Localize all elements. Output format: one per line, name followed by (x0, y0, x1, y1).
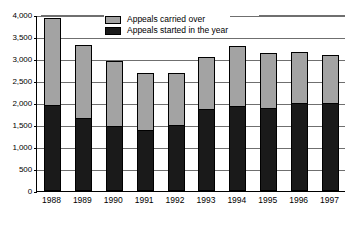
x-axis-tick-label: 1997 (314, 195, 345, 205)
bar-segment-started-in-year[interactable] (198, 109, 215, 191)
y-axis-tick-label: 3,500 (0, 34, 32, 42)
bar-group[interactable] (75, 15, 92, 191)
bar-group[interactable] (260, 15, 277, 191)
bar-segment-carried-over[interactable] (44, 18, 61, 106)
legend-label-carried-over: Appeals carried over (127, 15, 205, 24)
x-axis-tick-label: 1995 (252, 195, 283, 205)
bar-segment-carried-over[interactable] (260, 53, 277, 109)
x-axis-labels: 1988198919901991199219931994199519961997 (36, 195, 345, 209)
y-axis-tick (34, 192, 37, 193)
scan-artifact (0, 218, 350, 229)
bar-segment-carried-over[interactable] (137, 73, 154, 131)
bar-segment-started-in-year[interactable] (229, 106, 246, 191)
bar-group[interactable] (168, 15, 185, 191)
x-axis-tick-label: 1996 (283, 195, 314, 205)
legend-item-carried-over: Appeals carried over (105, 14, 228, 25)
bar-segment-started-in-year[interactable] (168, 125, 185, 191)
y-axis-tick-label: 0 (0, 188, 32, 196)
x-axis-tick-label: 1994 (221, 195, 252, 205)
bar-group[interactable] (322, 15, 339, 191)
legend-swatch-started-in-year-icon (105, 27, 121, 35)
bar-segment-started-in-year[interactable] (137, 130, 154, 191)
bar-segment-started-in-year[interactable] (260, 108, 277, 191)
bar-chart: 05001,0001,5002,0002,5003,0003,5004,000 … (0, 0, 350, 229)
bar-segment-started-in-year[interactable] (106, 126, 123, 191)
bar-group[interactable] (198, 15, 215, 191)
bar-segment-started-in-year[interactable] (322, 103, 339, 191)
bar-segment-started-in-year[interactable] (75, 118, 92, 191)
bar-group[interactable] (106, 15, 123, 191)
x-axis-tick-label: 1989 (67, 195, 98, 205)
bar-group[interactable] (229, 15, 246, 191)
y-axis-tick-label: 2,500 (0, 78, 32, 86)
bar-group[interactable] (44, 15, 61, 191)
bar-segment-carried-over[interactable] (168, 73, 185, 126)
x-axis-tick-label: 1990 (98, 195, 129, 205)
bar-group[interactable] (291, 15, 308, 191)
y-axis-tick-label: 500 (0, 166, 32, 174)
bar-segment-carried-over[interactable] (322, 55, 339, 104)
bar-segment-carried-over[interactable] (75, 45, 92, 119)
y-axis-tick-label: 4,000 (0, 12, 32, 20)
bar-segment-carried-over[interactable] (198, 57, 215, 110)
bar-segment-carried-over[interactable] (291, 52, 308, 104)
x-axis-tick-label: 1988 (36, 195, 67, 205)
y-axis-tick-label: 3,000 (0, 56, 32, 64)
legend: Appeals carried over Appeals started in … (104, 13, 230, 37)
x-axis-tick-label: 1991 (129, 195, 160, 205)
legend-label-started-in-year: Appeals started in the year (127, 26, 228, 35)
x-axis-tick-label: 1993 (191, 195, 222, 205)
plot-area (36, 16, 345, 192)
bar-segment-started-in-year[interactable] (291, 103, 308, 191)
y-axis-tick-label: 1,500 (0, 122, 32, 130)
bars-layer (37, 16, 345, 191)
y-axis-tick-label: 2,000 (0, 100, 32, 108)
legend-item-started-in-year: Appeals started in the year (105, 25, 228, 36)
bar-segment-started-in-year[interactable] (44, 105, 61, 191)
bar-group[interactable] (137, 15, 154, 191)
bar-segment-carried-over[interactable] (106, 61, 123, 127)
x-axis-tick-label: 1992 (160, 195, 191, 205)
y-axis-tick-label: 1,000 (0, 144, 32, 152)
legend-swatch-carried-over-icon (105, 16, 121, 24)
bar-segment-carried-over[interactable] (229, 46, 246, 107)
